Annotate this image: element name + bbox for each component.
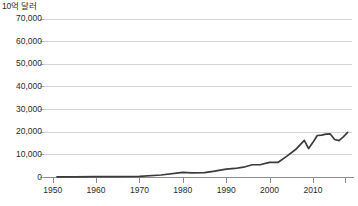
y-tick-label: 50,000	[0, 59, 42, 68]
chart-figure: 10억 달러 010,00020,00030,00040,00050,00060…	[0, 0, 358, 206]
x-tick-mark	[226, 178, 227, 183]
x-tick-mark	[183, 178, 184, 183]
x-tick-mark-minor	[345, 178, 346, 183]
y-tick-label: 10,000	[0, 150, 42, 159]
y-tick-label: 0	[0, 173, 42, 182]
x-tick-mark	[96, 178, 97, 183]
x-tick-mark	[313, 178, 314, 183]
y-tick-label: 30,000	[0, 105, 42, 114]
x-tick-label: 1950	[33, 185, 73, 195]
x-tick-label: 2010	[293, 185, 333, 195]
y-tick-label: 20,000	[0, 127, 42, 136]
x-tick-label: 1960	[76, 185, 116, 195]
x-tick-label: 1990	[206, 185, 246, 195]
y-tick-label: 40,000	[0, 82, 42, 91]
series-polyline	[57, 132, 348, 176]
x-tick-mark	[53, 178, 54, 183]
x-tick-label: 1980	[163, 185, 203, 195]
y-tick-label: 60,000	[0, 37, 42, 46]
x-tick-label: 2000	[250, 185, 290, 195]
data-series-line	[0, 0, 358, 206]
y-tick-label: 70,000	[0, 14, 42, 23]
x-tick-mark	[270, 178, 271, 183]
x-tick-label: 1970	[119, 185, 159, 195]
x-tick-mark	[139, 178, 140, 183]
